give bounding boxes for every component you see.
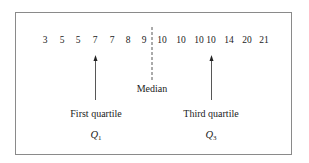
first-quartile-label: First quartile [70, 108, 121, 120]
q1-subscript: 1 [98, 134, 102, 142]
q1-letter: Q [90, 129, 98, 140]
first-quartile-arrow-icon [94, 55, 98, 100]
third-quartile-arrow-icon [210, 55, 214, 100]
diagram-lines [0, 0, 309, 163]
third-quartile-label: Third quartile [183, 108, 238, 120]
third-quartile-symbol: Q3 [205, 129, 216, 144]
q3-subscript: 3 [213, 134, 217, 142]
first-quartile-symbol: Q1 [90, 129, 101, 144]
q3-letter: Q [205, 129, 213, 140]
median-label: Median [137, 83, 168, 95]
